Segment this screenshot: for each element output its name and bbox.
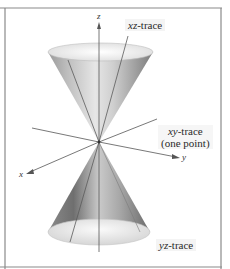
double-cone-figure: z x y xz-trace xy-trace (one point) yz-t… (0, 0, 230, 269)
xy-trace-suffix: -trace (178, 125, 203, 137)
upper-cone (48, 36, 153, 142)
xz-trace-suffix: -trace (137, 19, 162, 31)
yz-trace-label: yz-trace (156, 239, 196, 251)
xz-trace-label: xz-trace (125, 19, 165, 31)
x-axis-label: x (19, 170, 23, 179)
yz-trace-suffix: -trace (168, 239, 193, 251)
z-axis-label: z (97, 12, 101, 21)
xy-trace-var: xy (168, 125, 178, 137)
apex-point (98, 141, 101, 144)
xy-trace-label: xy-trace (one point) (158, 125, 213, 149)
z-axis-arrow-icon (97, 22, 101, 29)
y-axis-label: y (182, 153, 186, 162)
xz-trace-var: xz (128, 19, 137, 31)
x-axis-arrow-icon (26, 169, 34, 174)
yz-trace-var: yz (159, 239, 168, 251)
xy-trace-note: (one point) (161, 137, 210, 149)
y-axis-arrow-icon (172, 154, 180, 159)
